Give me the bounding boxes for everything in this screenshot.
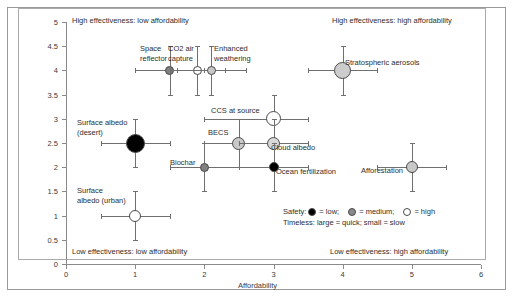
legend-swatch-high <box>403 208 411 216</box>
data-point-marker[interactable] <box>406 161 418 173</box>
error-cap-bottom <box>133 240 138 241</box>
y-axis-tick <box>62 119 66 120</box>
error-cap-top <box>272 143 277 144</box>
y-axis-tick <box>62 70 66 71</box>
error-cap-left <box>170 68 171 73</box>
error-cap-right <box>246 68 247 73</box>
error-cap-bottom <box>202 191 207 192</box>
error-cap-bottom <box>133 167 138 168</box>
x-axis-tick-label: 5 <box>410 270 414 279</box>
y-axis-tick <box>62 191 66 192</box>
error-cap-bottom <box>410 191 415 192</box>
error-cap-bottom <box>195 95 200 96</box>
legend-timeless-row: Timeless: large = quick; small = slow <box>283 217 435 228</box>
y-axis-tick <box>62 216 66 217</box>
error-cap-bottom <box>341 95 346 96</box>
data-point-label: Enhanced weathering <box>214 44 251 63</box>
x-axis-tick-label: 4 <box>341 270 345 279</box>
legend-swatch-medium <box>348 208 356 216</box>
y-axis-tick <box>62 240 66 241</box>
y-axis-tick-label: 3 <box>0 114 58 123</box>
y-axis-tick-label: 1 <box>0 211 58 220</box>
y-axis-tick-label: 2.5 <box>0 139 58 148</box>
error-cap-left <box>101 141 102 146</box>
data-point-label: Biochar <box>170 158 195 168</box>
y-axis-tick-label: 5 <box>0 18 58 27</box>
legend-timeless-label: Timeless: large = quick; small = slow <box>283 217 405 228</box>
error-cap-right <box>308 117 309 122</box>
error-cap-right <box>170 214 171 219</box>
y-axis-tick <box>62 95 66 96</box>
data-point-marker[interactable] <box>200 163 209 172</box>
y-axis-tick-label: 4 <box>0 66 58 75</box>
error-cap-left <box>135 68 136 73</box>
error-cap-right <box>377 68 378 73</box>
data-point-marker[interactable] <box>207 66 216 75</box>
quadrant-label-bottom-right: Low effectiveness: high affordability <box>330 247 448 256</box>
quadrant-label-bottom-left: Low effectiveness: low affordability <box>72 247 187 256</box>
x-axis-tick <box>412 265 413 269</box>
error-cap-top <box>133 119 138 120</box>
error-cap-right <box>170 141 171 146</box>
y-axis-tick <box>62 143 66 144</box>
legend-swatch-low <box>308 208 316 216</box>
y-axis-tick <box>62 264 66 265</box>
x-axis-tick <box>481 265 482 269</box>
error-bar-horizontal <box>204 119 308 120</box>
data-point-marker[interactable] <box>129 210 141 222</box>
x-axis-tick <box>274 265 275 269</box>
error-cap-left <box>177 68 178 73</box>
quadrant-label-top-right: High effectiveness: high affordability <box>332 16 452 25</box>
error-cap-left <box>101 214 102 219</box>
x-axis-tick-label: 0 <box>64 270 68 279</box>
data-point-label: Surface albedo (desert) <box>77 118 127 137</box>
error-cap-top <box>195 46 200 47</box>
legend-safety-prefix: Safety: <box>283 206 306 217</box>
data-point-marker[interactable] <box>126 134 145 153</box>
x-axis-tick <box>204 265 205 269</box>
error-cap-bottom <box>168 95 173 96</box>
error-cap-left <box>308 68 309 73</box>
x-axis-tick <box>66 265 67 269</box>
y-axis-tick <box>62 167 66 168</box>
data-point-label: Space reflector <box>140 44 167 63</box>
data-point-label: CO2 air capture <box>168 44 194 63</box>
y-axis-tick-label: 2 <box>0 163 58 172</box>
y-axis-tick <box>62 22 66 23</box>
data-point-label: Cloud albedo <box>271 143 315 153</box>
legend-high-label: = high <box>414 206 435 217</box>
data-point-label: Afforestation <box>361 166 403 176</box>
data-point-label: BECS <box>208 128 228 138</box>
error-cap-right <box>446 165 447 170</box>
error-cap-left <box>204 117 205 122</box>
error-cap-top <box>272 95 277 96</box>
y-axis-tick-label: 0 <box>0 260 58 269</box>
y-axis-tick-label: 4.5 <box>0 42 58 51</box>
legend-low-label: = low; <box>319 206 339 217</box>
x-axis-tick-label: 1 <box>133 270 137 279</box>
error-cap-left <box>239 165 240 170</box>
x-axis-tick <box>343 265 344 269</box>
chart-screenshot: 012345600.511.522.533.544.55Space reflec… <box>0 0 515 302</box>
error-cap-top <box>202 143 207 144</box>
legend-medium-label: = medium; <box>359 206 394 217</box>
y-axis-tick-label: 3.5 <box>0 90 58 99</box>
x-axis-label: Affordability <box>0 281 515 290</box>
error-cap-top <box>237 119 242 120</box>
y-axis-tick-label: 1.5 <box>0 187 58 196</box>
x-axis-tick-label: 3 <box>271 270 275 279</box>
y-axis-tick <box>62 46 66 47</box>
data-point-label: Stratospheric aerosols <box>345 58 420 68</box>
error-cap-top <box>133 191 138 192</box>
data-point-label: CCS at source <box>211 106 260 116</box>
error-cap-top <box>272 119 277 120</box>
x-axis-tick-label: 6 <box>479 270 483 279</box>
error-cap-bottom <box>209 95 214 96</box>
y-axis-line <box>66 22 67 264</box>
error-cap-left <box>239 141 240 146</box>
data-point-label: Ocean fertilization <box>276 167 336 177</box>
error-cap-top <box>410 143 415 144</box>
error-cap-top <box>341 46 346 47</box>
x-axis-tick-label: 2 <box>202 270 206 279</box>
data-point-label: Surface albedo (urban) <box>77 186 126 205</box>
